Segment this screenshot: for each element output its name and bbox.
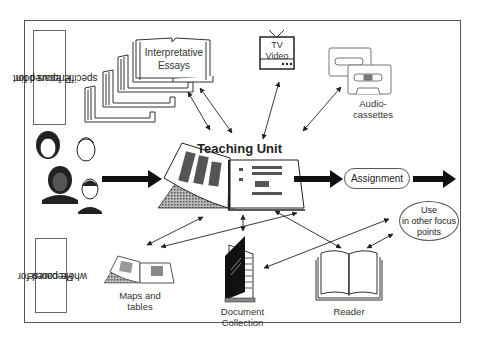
teaching-unit-title: Teaching Unit [197,141,282,156]
side-label-whole-course: Prepared forwhole course [35,238,67,313]
students-icon [36,131,102,214]
document-collection-label: Document Collection [215,306,270,328]
audio-cassettes-label: Audio- cassettes [348,98,398,120]
side-label-specific-focus: Prepared forspecific focus point [33,30,66,125]
reader-book-icon [316,251,382,300]
tv-video-label: TV Video [262,40,292,62]
diagram-canvas [0,0,486,344]
use-other-focus-node: Use in other focus points [399,201,459,241]
reader-label: Reader [327,306,371,317]
essays-label: Interpretative Essays [143,46,205,72]
maps-tables-label: Maps and tables [115,290,165,312]
maps-tables-icon [104,256,174,283]
audio-cassettes-icon [329,48,391,94]
assignment-node: Assignment [344,168,410,189]
document-collection-icon [225,236,255,302]
